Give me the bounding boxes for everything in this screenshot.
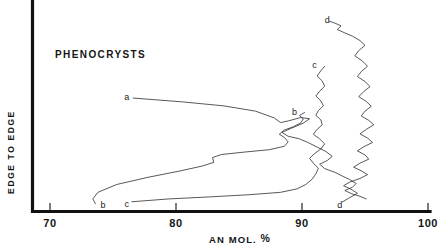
axis-lines xyxy=(33,1,431,212)
curve-a xyxy=(133,98,366,199)
curve-label-b: b xyxy=(292,107,297,117)
x-axis-title: AN MOL. % xyxy=(209,232,271,245)
plot-title: PHENOCRYSTS xyxy=(55,49,146,60)
curve-label-layer: abbccdd xyxy=(100,15,342,210)
curve-b xyxy=(93,113,305,204)
curve-label-d: d xyxy=(337,200,342,210)
curve-label-a: a xyxy=(124,92,129,102)
y-axis-title: EDGE TO EDGE xyxy=(6,110,16,194)
chart-svg: PHENOCRYSTS EDGE TO EDGE 70 80 90 100 AN… xyxy=(0,0,440,251)
x-axis-tick-labels: 70 80 90 100 xyxy=(43,217,438,229)
curve-label-d: d xyxy=(325,15,330,25)
curve-d xyxy=(330,21,374,202)
x-tick-label: 70 xyxy=(43,217,56,229)
x-tick-label: 80 xyxy=(169,217,182,229)
curve-label-b: b xyxy=(100,200,105,210)
chart-figure: PHENOCRYSTS EDGE TO EDGE 70 80 90 100 AN… xyxy=(0,0,440,251)
curve-label-c: c xyxy=(312,60,317,70)
curve-c xyxy=(132,66,325,201)
x-tick-label: 100 xyxy=(418,217,438,229)
x-tick-label: 90 xyxy=(295,217,308,229)
curve-label-c: c xyxy=(125,199,130,209)
